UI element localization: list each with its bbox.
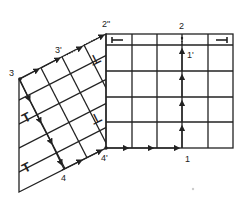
diagram-canvas: T T ⊥ ⊥ 2 2" 3 3' 1' 1 [0, 0, 246, 199]
label-3-prime: 3' [55, 45, 62, 55]
label-4-prime: 4' [101, 153, 108, 163]
label-2-double-prime: 2" [102, 19, 110, 29]
label-1: 1 [185, 154, 190, 164]
label-4: 4 [61, 173, 66, 183]
right-strip-symbols [112, 37, 227, 43]
speck [192, 188, 194, 190]
label-2: 2 [179, 21, 184, 31]
t-symbol-lower: T [19, 159, 33, 176]
inverted-t-symbol-lower: ⊥ [87, 109, 104, 127]
label-3: 3 [9, 68, 14, 78]
inverted-t-symbol-upper: ⊥ [86, 50, 103, 68]
right-grid [106, 34, 233, 148]
label-1-prime: 1' [187, 50, 194, 60]
